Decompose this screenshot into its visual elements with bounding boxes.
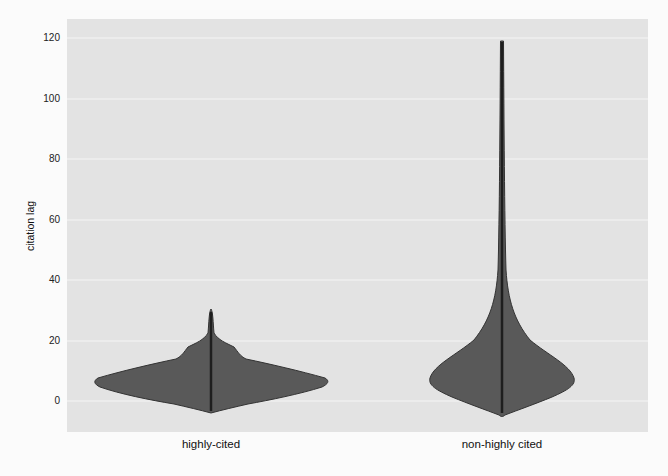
x-tick-highly-cited: highly-cited (182, 438, 240, 450)
x-axis-ticks: highly-cited non-highly cited (182, 438, 542, 450)
y-tick: 60 (49, 214, 61, 225)
y-tick: 120 (43, 32, 60, 43)
y-tick: 40 (49, 274, 61, 285)
y-tick: 80 (49, 153, 61, 164)
y-axis-label: citation lag (24, 201, 36, 251)
y-tick: 0 (54, 395, 60, 406)
y-axis-ticks: 0 20 40 60 80 100 120 (43, 32, 60, 406)
x-tick-non-highly-cited: non-highly cited (462, 438, 543, 450)
y-tick: 20 (49, 335, 61, 346)
y-tick: 100 (43, 93, 60, 104)
violin-chart: 0 20 40 60 80 100 120 citation lag highl… (0, 0, 668, 476)
